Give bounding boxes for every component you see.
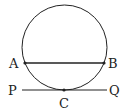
label-p: P — [8, 83, 17, 98]
label-b: B — [108, 56, 118, 71]
label-c: C — [59, 96, 69, 111]
label-a: A — [8, 56, 19, 71]
point-a-dot — [23, 61, 26, 64]
label-q: Q — [109, 83, 120, 98]
point-b-dot — [102, 61, 105, 64]
circle — [22, 5, 107, 90]
point-c-dot — [62, 88, 65, 91]
geometry-diagram: A B P Q C — [0, 0, 128, 112]
